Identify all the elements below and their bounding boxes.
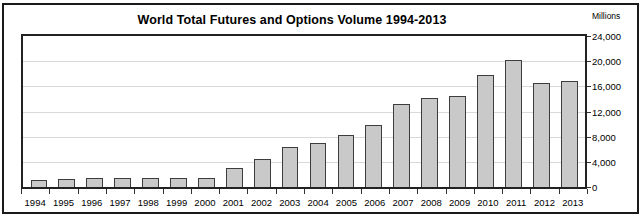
x-tick [21,189,22,194]
bar [533,83,550,187]
bar [58,179,75,187]
x-tick [219,189,220,194]
x-tick-label: 2008 [417,197,445,213]
x-tick-label: 2009 [445,197,473,213]
bar-cell [165,36,193,187]
bar-cell [248,36,276,187]
bar [114,178,131,187]
bar-series [23,36,585,187]
x-tick-label: 2013 [559,197,587,213]
x-tick-label: 2000 [191,197,219,213]
bar [170,178,187,187]
bar-cell [81,36,109,187]
y-tick-label: 12,000 [592,106,621,117]
y-tick [587,86,591,87]
x-tick-label: 2003 [276,197,304,213]
x-tick [106,189,107,194]
x-tick [530,189,531,194]
x-tick [163,189,164,194]
x-tick [417,189,418,194]
chart-frame: World Total Futures and Options Volume 1… [2,3,639,214]
bar [282,147,299,187]
y-tick [587,137,591,138]
x-tick [446,189,447,194]
y-tick [587,36,591,37]
bar-cell [53,36,81,187]
y-axis-tick-labels: 24,00020,00016,00012,0008,0004,0000 [592,29,643,197]
x-tick-label: 2005 [332,197,360,213]
bar-cell [137,36,165,187]
bar-cell [220,36,248,187]
x-tick-label: 2007 [389,197,417,213]
bar [86,178,103,187]
bar-cell [304,36,332,187]
y-tick-label: 16,000 [592,81,621,92]
bar [505,60,522,187]
bar-cell [192,36,220,187]
x-tick-label: 2001 [219,197,247,213]
bar [31,180,48,187]
x-tick-label: 1998 [134,197,162,213]
y-tick [587,61,591,62]
bar [477,75,494,187]
x-tick [134,189,135,194]
bar-cell [388,36,416,187]
y-tick [587,162,591,163]
x-tick-label: 2012 [530,197,558,213]
x-tick-label: 2006 [361,197,389,213]
x-tick [474,189,475,194]
y-tick-label: 8,000 [592,131,616,142]
x-tick [276,189,277,194]
bar [226,168,243,188]
x-tick-label: 2010 [474,197,502,213]
x-tick-label: 1996 [78,197,106,213]
x-tick [49,189,50,194]
bar-cell [555,36,583,187]
x-tick-label: 1995 [49,197,77,213]
bar-cell [416,36,444,187]
gridline [23,187,585,188]
plot-area [21,34,587,189]
bar-cell [360,36,388,187]
bar [421,98,438,187]
x-tick-label: 2002 [247,197,275,213]
bar [338,135,355,187]
x-tick-label: 1999 [162,197,190,213]
bar-cell [25,36,53,187]
x-tick [332,189,333,194]
bar [310,143,327,187]
x-tick-label: 1994 [21,197,49,213]
x-tick [361,189,362,194]
y-axis-units-label: Millions [592,11,643,21]
y-tick-label: 4,000 [592,156,616,167]
x-tick [191,189,192,194]
x-axis-ticks [21,189,587,196]
bar-cell [109,36,137,187]
y-tick [587,112,591,113]
bar [449,96,466,187]
chart-title: World Total Futures and Options Volume 1… [4,13,580,27]
x-tick-label: 2011 [502,197,530,213]
y-tick-label: 0 [592,182,597,193]
bar-cell [332,36,360,187]
y-tick [587,187,591,188]
bar [198,178,215,187]
x-tick [502,189,503,194]
x-tick [247,189,248,194]
x-tick [587,189,588,194]
x-tick [559,189,560,194]
bar [142,178,159,187]
x-tick [78,189,79,194]
bar-cell [472,36,500,187]
bar-cell [444,36,472,187]
x-tick-label: 1997 [106,197,134,213]
bar [254,159,271,187]
y-tick-label: 24,000 [592,31,621,42]
x-tick [304,189,305,194]
x-tick-label: 2004 [304,197,332,213]
bar-cell [276,36,304,187]
bar-cell [499,36,527,187]
bar [393,104,410,187]
bar [561,81,578,187]
y-tick-label: 20,000 [592,56,621,67]
